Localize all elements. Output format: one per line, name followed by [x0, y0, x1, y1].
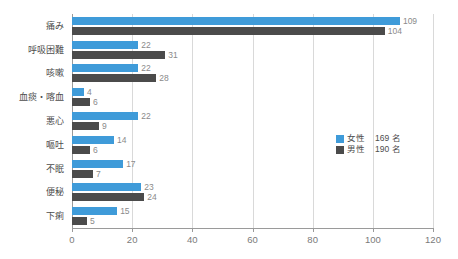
bar-line: 22 [72, 64, 433, 72]
x-tick-label: 120 [425, 234, 441, 245]
bar-value-label: 9 [102, 122, 107, 130]
bar-value-label: 22 [141, 64, 150, 72]
bar-female [72, 160, 123, 168]
x-tick-mark [433, 228, 434, 232]
category-label: 下痢 [46, 211, 64, 221]
x-tick-mark [253, 228, 254, 232]
bar-value-label: 104 [388, 27, 402, 35]
bar-female [72, 17, 400, 25]
legend-count-male: 190 名 [375, 144, 401, 155]
category-label: 不眠 [46, 164, 64, 174]
category-axis: 痛み呼吸困難咳嗽血痰・喀血悪心嘔吐不眠便秘下痢 [0, 14, 68, 228]
bar-female [72, 88, 84, 96]
bar-row: 2228 [72, 62, 433, 86]
bar-line: 7 [72, 170, 433, 178]
x-tick-mark [313, 228, 314, 232]
bar-line: 22 [72, 41, 433, 49]
bar-female [72, 207, 117, 215]
bar-male [72, 98, 90, 106]
x-tick-label: 40 [187, 234, 198, 245]
bar-female [72, 64, 138, 72]
category-label: 痛み [46, 21, 64, 31]
bar-line: 104 [72, 27, 433, 35]
bar-male [72, 27, 385, 35]
bar-row: 177 [72, 157, 433, 181]
bar-line: 4 [72, 88, 433, 96]
bar-value-label: 15 [120, 207, 129, 215]
bar-male [72, 122, 99, 130]
x-tick-mark [132, 228, 133, 232]
legend: 女性 169 名 男性 190 名 [336, 133, 401, 155]
bar-value-label: 4 [87, 88, 92, 96]
x-tick-label: 100 [365, 234, 381, 245]
bar-female [72, 41, 138, 49]
legend-count-female: 169 名 [375, 133, 401, 144]
female-swatch-icon [336, 135, 344, 143]
bar-row: 155 [72, 204, 433, 228]
bar-female [72, 136, 114, 144]
bar-row: 109104 [72, 14, 433, 38]
bar-line: 17 [72, 160, 433, 168]
category-label: 呼吸困難 [28, 45, 64, 55]
bar-male [72, 51, 165, 59]
bar-row: 2324 [72, 180, 433, 204]
bar-value-label: 5 [90, 217, 95, 225]
bar-value-label: 22 [141, 41, 150, 49]
x-tick-label: 0 [69, 234, 74, 245]
x-tick-mark [72, 228, 73, 232]
bar-male [72, 170, 93, 178]
plot-area: 10910422312228462291461772324155 [72, 14, 433, 228]
x-tick-label: 20 [127, 234, 138, 245]
bar-value-label: 14 [117, 136, 126, 144]
bar-male [72, 217, 87, 225]
bar-value-label: 28 [159, 74, 168, 82]
bar-value-label: 22 [141, 112, 150, 120]
x-tick-label: 60 [247, 234, 258, 245]
x-tick-mark [373, 228, 374, 232]
bar-line: 28 [72, 74, 433, 82]
bar-value-label: 24 [147, 193, 156, 201]
bar-line: 31 [72, 51, 433, 59]
bar-value-label: 31 [168, 51, 177, 59]
x-tick-label: 80 [307, 234, 318, 245]
bar-line: 22 [72, 112, 433, 120]
bar-value-label: 6 [93, 98, 98, 106]
bar-female [72, 183, 141, 191]
bar-male [72, 193, 144, 201]
legend-item-male: 男性 190 名 [336, 144, 401, 155]
legend-item-female: 女性 169 名 [336, 133, 401, 144]
legend-label-female: 女性 [347, 133, 371, 144]
bar-female [72, 112, 138, 120]
bar-value-label: 6 [93, 146, 98, 154]
category-label: 血痰・喀血 [19, 92, 64, 102]
bar-line: 5 [72, 217, 433, 225]
bar-value-label: 109 [403, 17, 417, 25]
bar-value-label: 23 [144, 183, 153, 191]
bar-line: 109 [72, 17, 433, 25]
bar-line: 23 [72, 183, 433, 191]
gridline [433, 14, 434, 228]
bar-line: 6 [72, 98, 433, 106]
bar-chart: 痛み呼吸困難咳嗽血痰・喀血悪心嘔吐不眠便秘下痢 1091042231222846… [0, 0, 458, 259]
category-label: 咳嗽 [46, 68, 64, 78]
legend-label-male: 男性 [347, 144, 371, 155]
bar-line: 24 [72, 193, 433, 201]
bar-value-label: 7 [96, 170, 101, 178]
bar-line: 15 [72, 207, 433, 215]
x-tick-mark [192, 228, 193, 232]
bar-rows: 10910422312228462291461772324155 [72, 14, 433, 228]
bar-line: 9 [72, 122, 433, 130]
bar-row: 2231 [72, 38, 433, 62]
category-label: 悪心 [46, 116, 64, 126]
male-swatch-icon [336, 146, 344, 154]
bar-row: 46 [72, 85, 433, 109]
bar-row: 229 [72, 109, 433, 133]
category-label: 便秘 [46, 187, 64, 197]
bar-male [72, 146, 90, 154]
category-label: 嘔吐 [46, 140, 64, 150]
bar-male [72, 74, 156, 82]
bar-value-label: 17 [126, 160, 135, 168]
